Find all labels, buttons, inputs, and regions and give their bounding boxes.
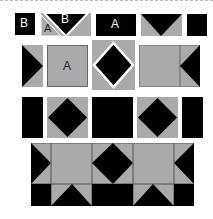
- black-square-middle[interactable]: [92, 97, 133, 138]
- label-b-triangle: B: [61, 12, 69, 26]
- label-a: A: [111, 17, 119, 31]
- black-rect-left[interactable]: [22, 97, 43, 138]
- tile-black-B[interactable]: B: [15, 13, 35, 35]
- tile-black-small[interactable]: [187, 14, 207, 36]
- black-rect-right[interactable]: [182, 97, 203, 138]
- label-a-gray: A: [63, 59, 71, 73]
- v-tile[interactable]: [141, 14, 182, 36]
- dashed-border: [0, 0, 213, 1]
- label-a-small: A: [44, 22, 51, 34]
- label-b: B: [20, 16, 28, 30]
- left-triangle-tile[interactable]: [139, 45, 200, 87]
- diamond-tile-outlined[interactable]: [92, 40, 135, 90]
- tile-black-A[interactable]: A: [96, 14, 136, 36]
- quilt-block-assembled[interactable]: [31, 143, 194, 206]
- right-triangle-tile[interactable]: [22, 45, 43, 87]
- gray-square-A[interactable]: A: [47, 45, 88, 87]
- gray-diamond-2[interactable]: [137, 97, 178, 138]
- gray-diamond-1[interactable]: [47, 97, 88, 138]
